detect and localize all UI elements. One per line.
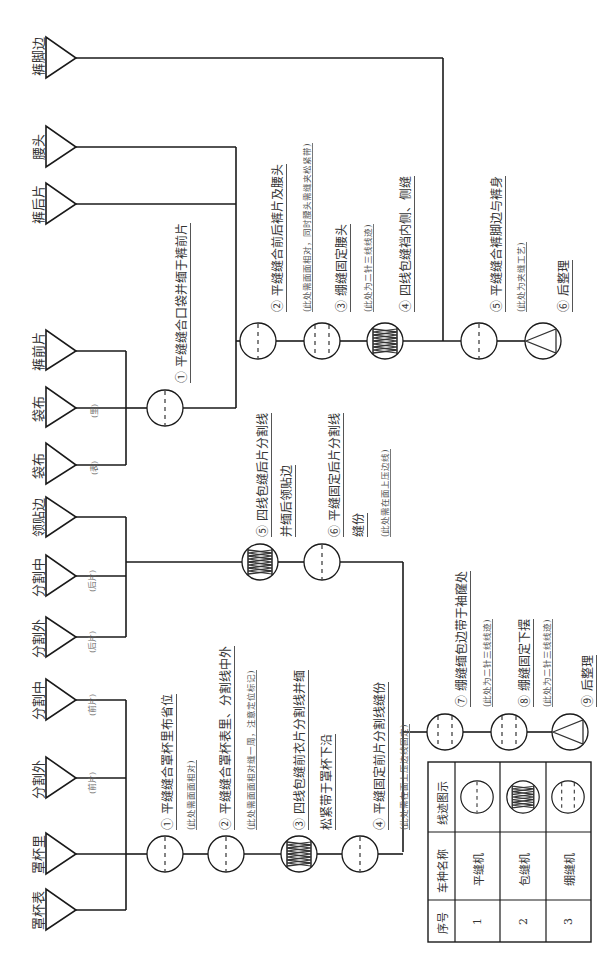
pants-step2-note: (此处需面面相对，同时腰头需缝夹松紧带) [300, 143, 313, 312]
top-step2-text: ② 平缝缝合罩杯表里、分割线中外 [216, 646, 235, 830]
input-sub-front-center: (前片) [86, 694, 97, 716]
input-sub-inner: (里) [88, 404, 99, 418]
top-input-triangles [46, 497, 76, 930]
legend-index-2: 2 [517, 918, 530, 925]
legend-table [428, 762, 591, 942]
input-sub-front-side: (前片) [86, 772, 97, 794]
legend-overlock-icon [507, 781, 539, 813]
pants-input-triangles [46, 37, 76, 484]
pants-step6-finishing-icon [525, 323, 561, 359]
top-step6-note: (此处需在面上压边线) [378, 449, 391, 537]
input-label-front-center-panel: 分割中 [28, 681, 47, 720]
pants-step3-text: ③ 绷缝固定腰头 [332, 224, 351, 312]
input-label-waistband: 腰头 [28, 134, 47, 160]
legend-machine-2: 包缝机 [516, 853, 532, 886]
top-step2-lockstitch-icon [208, 836, 244, 872]
input-label-pocket-lining-outer: 袋布 [28, 453, 47, 479]
top-step6-text: ⑥ 平缝固定后片分割线 [325, 413, 344, 537]
legend-machine-1: 平缝机 [470, 853, 486, 886]
legend-header-machine: 车种名称 [434, 849, 450, 893]
input-label-back-trouser-panel: 裤后片 [28, 185, 47, 224]
pants-step6-text: ⑥ 后整理 [554, 260, 573, 312]
input-label-trouser-hem: 裤脚边 [28, 37, 47, 76]
legend-machine-3: 绷缝机 [561, 853, 577, 886]
input-label-neck-facing: 领贴边 [28, 498, 47, 537]
top-step7-coverstitch-icon [427, 714, 463, 750]
top-step6-lockstitch-icon [304, 544, 340, 580]
legend-header-index: 序号 [434, 912, 450, 934]
top-step5-overlock-icon [242, 544, 278, 580]
pants-step1-lockstitch-icon [147, 390, 183, 426]
input-label-cup-lining: 罩杯里 [28, 835, 47, 874]
input-label-back-center-panel: 分割中 [28, 558, 47, 597]
top-step7-text: ⑦ 绷缝缅包边带于袖窿处 [452, 571, 471, 707]
top-step1-lockstitch-icon [147, 836, 183, 872]
top-step2-note: (此处需面面相对缝一周，注意定位标记) [244, 670, 257, 830]
legend-lockstitch-icon [461, 781, 493, 813]
pants-step5-lockstitch-icon [461, 323, 497, 359]
top-step3-text: ③ 四线包缝前衣片分割线并缅 [290, 670, 309, 830]
top-step4-text: ④ 平缝固定前片分割线缝份 [370, 682, 389, 830]
input-sub-outer: (表) [88, 461, 99, 475]
pants-step3-coverstitch-icon [304, 323, 340, 359]
input-label-cup-shell: 罩杯表 [28, 891, 47, 930]
pants-step4-overlock-icon [367, 323, 403, 359]
top-step7-note: (此处为二针三线线迹) [480, 619, 493, 707]
pants-step-symbols [147, 323, 561, 426]
top-step9-text: ⑨ 后整理 [578, 655, 597, 707]
input-label-back-side-panel: 分割外 [28, 619, 47, 658]
input-label-pocket-lining-inner: 袋布 [28, 396, 47, 422]
top-step5-text-line2: 并缅后领贴边 [277, 465, 296, 537]
top-step8-text: ⑧ 绷缝固定下摆 [515, 619, 534, 707]
top-step8-note: (此处为二针三线线迹) [540, 619, 553, 707]
top-step3-text-line2: 松紧带于罩杯下沿 [317, 734, 336, 830]
input-label-front-side-panel: 分割外 [28, 760, 47, 799]
input-label-front-trouser-panel: 裤前片 [28, 332, 47, 371]
top-step1-text: ① 平缝缝合罩杯里布省位 [158, 694, 177, 830]
pants-step5-text: ⑤ 平缝缝合裤脚边与裤身 [487, 176, 506, 312]
top-step-symbols [147, 544, 588, 872]
input-sub-back-center: (后片) [86, 570, 97, 592]
top-step4-lockstitch-icon [342, 836, 378, 872]
top-step3-overlock-icon [281, 836, 317, 872]
pants-step2-text: ② 平缝缝合前后裤片及腰头 [268, 164, 287, 312]
top-step6-text-line2: 缝份 [349, 513, 368, 537]
pants-step1-text: ① 平缝缝合口袋并缅于裤前片 [172, 223, 191, 383]
legend-coverstitch-icon [552, 781, 584, 813]
legend-header-stitch: 线迹图示 [434, 781, 450, 825]
input-sub-back-side: (后片) [86, 631, 97, 653]
legend-index-1: 1 [471, 918, 484, 925]
pants-step2-lockstitch-icon [240, 323, 276, 359]
sewing-process-diagram: 裤脚边 腰头 裤后片 裤前片 袋布 (里) 袋布 (表) ① 平缝缝合口袋并缅于… [0, 0, 613, 954]
top-step1-note: (此处需面面相对) [184, 760, 197, 830]
top-step9-finishing-icon [552, 714, 588, 750]
top-step8-coverstitch-icon [491, 714, 527, 750]
pants-step3-note: (此处为二针三线线迹) [361, 224, 374, 312]
legend-index-3: 3 [562, 918, 575, 925]
top-step4-note: (此处需在面上压边线固定) [397, 724, 410, 830]
pants-step4-text: ④ 四线包缝裆内侧、侧缝 [396, 176, 415, 312]
top-step5-text: ⑤ 四线包缝后片分割线 [253, 413, 272, 537]
pants-step5-note: (此处为夹缝工艺) [514, 242, 527, 312]
